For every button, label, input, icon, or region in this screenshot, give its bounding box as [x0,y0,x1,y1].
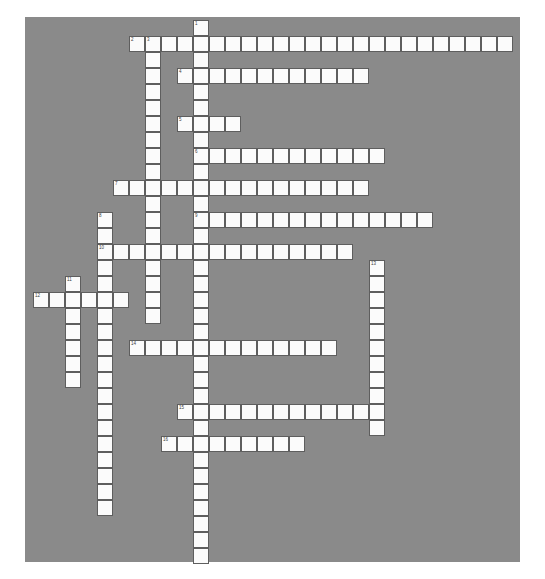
crossword-cell[interactable] [273,404,289,420]
crossword-cell[interactable] [241,436,257,452]
crossword-cell[interactable] [97,436,113,452]
crossword-cell[interactable] [321,180,337,196]
crossword-cell[interactable] [273,148,289,164]
crossword-cell[interactable] [209,212,225,228]
crossword-cell[interactable] [145,132,161,148]
crossword-grid[interactable]: 12345678910131112141516 [25,17,520,562]
crossword-cell[interactable] [369,340,385,356]
crossword-cell[interactable] [337,36,353,52]
crossword-cell-numbered[interactable]: 9 [193,212,209,228]
crossword-cell[interactable] [97,260,113,276]
crossword-cell[interactable] [449,36,465,52]
crossword-cell[interactable] [337,68,353,84]
crossword-cell[interactable] [497,36,513,52]
crossword-cell[interactable] [369,324,385,340]
crossword-cell[interactable] [321,212,337,228]
crossword-cell-numbered[interactable]: 12 [33,292,49,308]
crossword-cell-numbered[interactable]: 15 [177,404,193,420]
crossword-cell[interactable] [241,340,257,356]
crossword-cell[interactable] [241,212,257,228]
crossword-cell[interactable] [113,244,129,260]
crossword-cell[interactable] [225,212,241,228]
crossword-cell[interactable] [273,244,289,260]
crossword-cell[interactable] [97,388,113,404]
crossword-cell-numbered[interactable]: 1 [193,20,209,36]
crossword-cell[interactable] [433,36,449,52]
crossword-cell[interactable] [193,68,209,84]
crossword-cell[interactable] [145,100,161,116]
crossword-cell[interactable] [465,36,481,52]
crossword-cell-numbered[interactable]: 5 [177,116,193,132]
crossword-cell[interactable] [305,180,321,196]
crossword-cell[interactable] [193,532,209,548]
crossword-cell[interactable] [225,436,241,452]
crossword-cell[interactable] [337,148,353,164]
crossword-cell-numbered[interactable]: 13 [369,260,385,276]
crossword-cell[interactable] [193,260,209,276]
crossword-cell[interactable] [97,468,113,484]
crossword-cell[interactable] [145,52,161,68]
crossword-cell[interactable] [145,84,161,100]
crossword-cell[interactable] [289,148,305,164]
crossword-cell[interactable] [97,500,113,516]
crossword-cell[interactable] [257,340,273,356]
crossword-cell-numbered[interactable]: 3 [145,36,161,52]
crossword-cell[interactable] [145,292,161,308]
crossword-cell[interactable] [353,212,369,228]
crossword-cell[interactable] [209,404,225,420]
crossword-cell-numbered[interactable]: 4 [177,68,193,84]
crossword-cell[interactable] [145,228,161,244]
crossword-cell[interactable] [193,388,209,404]
crossword-cell[interactable] [369,404,385,420]
crossword-cell[interactable] [225,340,241,356]
crossword-cell[interactable] [337,404,353,420]
crossword-cell[interactable] [241,68,257,84]
crossword-cell[interactable] [401,36,417,52]
crossword-cell[interactable] [225,244,241,260]
crossword-cell[interactable] [321,404,337,420]
crossword-cell[interactable] [257,244,273,260]
crossword-cell[interactable] [49,292,65,308]
crossword-cell[interactable] [401,212,417,228]
crossword-cell-numbered[interactable]: 8 [97,212,113,228]
crossword-cell[interactable] [209,116,225,132]
crossword-cell[interactable] [145,260,161,276]
crossword-cell[interactable] [65,372,81,388]
crossword-cell[interactable] [225,148,241,164]
crossword-cell[interactable] [145,116,161,132]
crossword-cell[interactable] [97,340,113,356]
crossword-cell[interactable] [289,244,305,260]
crossword-cell[interactable] [177,436,193,452]
crossword-cell[interactable] [321,244,337,260]
crossword-cell[interactable] [193,228,209,244]
crossword-cell[interactable] [65,324,81,340]
crossword-cell[interactable] [161,180,177,196]
crossword-cell-numbered[interactable]: 11 [65,276,81,292]
crossword-cell[interactable] [129,244,145,260]
crossword-cell[interactable] [65,308,81,324]
crossword-cell[interactable] [145,180,161,196]
crossword-cell[interactable] [209,436,225,452]
crossword-cell[interactable] [193,84,209,100]
crossword-cell[interactable] [257,404,273,420]
crossword-cell[interactable] [193,404,209,420]
crossword-cell[interactable] [257,68,273,84]
crossword-cell[interactable] [65,356,81,372]
crossword-cell[interactable] [289,340,305,356]
crossword-cell[interactable] [97,452,113,468]
crossword-cell[interactable] [193,468,209,484]
crossword-cell[interactable] [241,244,257,260]
crossword-cell[interactable] [193,180,209,196]
crossword-cell[interactable] [193,324,209,340]
crossword-cell-numbered[interactable]: 16 [161,436,177,452]
crossword-cell[interactable] [145,196,161,212]
crossword-cell[interactable] [97,484,113,500]
crossword-cell[interactable] [289,36,305,52]
crossword-cell[interactable] [225,68,241,84]
crossword-cell[interactable] [177,244,193,260]
crossword-cell-numbered[interactable]: 7 [113,180,129,196]
crossword-cell[interactable] [209,340,225,356]
crossword-cell[interactable] [97,308,113,324]
crossword-cell[interactable] [369,36,385,52]
crossword-cell[interactable] [193,132,209,148]
